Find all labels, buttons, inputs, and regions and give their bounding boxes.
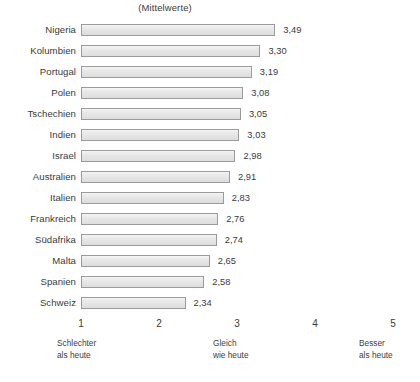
category-label: Italien: [0, 192, 76, 203]
chart-plot-area: Nigeria3,49Kolumbien3,30Portugal3,19Pole…: [0, 22, 420, 316]
bar: [81, 150, 235, 162]
bar-track: 3,19: [81, 66, 420, 79]
bar-value-label: 2,91: [238, 172, 256, 182]
bar-value-label: 3,03: [247, 130, 265, 140]
bar-track: 2,58: [81, 276, 420, 289]
chart-row: Spanien2,58: [0, 274, 420, 295]
category-label: Frankreich: [0, 213, 76, 224]
x-axis-tick-labels: 12345: [0, 318, 420, 332]
chart-title: (Mittelwerte): [0, 2, 330, 13]
bar: [81, 297, 186, 309]
x-axis-tick-2: 2: [139, 318, 179, 329]
bar-chart: (Mittelwerte) Nigeria3,49Kolumbien3,30Po…: [0, 0, 420, 382]
category-label: Spanien: [0, 276, 76, 287]
category-label: Kolumbien: [0, 45, 76, 56]
bar-track: 3,08: [81, 87, 420, 100]
axis-caption-line1: Schlechter: [57, 338, 96, 350]
bar-track: 2,74: [81, 234, 420, 247]
chart-row: Israel2,98: [0, 148, 420, 169]
bar-track: 3,30: [81, 45, 420, 58]
bar: [81, 234, 217, 246]
axis-caption-line1: Gleich: [213, 338, 249, 350]
bar-track: 2,98: [81, 150, 420, 163]
chart-row: Indien3,03: [0, 127, 420, 148]
bar: [81, 192, 224, 204]
bar-track: 2,65: [81, 255, 420, 268]
bar-value-label: 2,65: [218, 256, 236, 266]
bar-track: 3,05: [81, 108, 420, 121]
axis-caption-line1: Besser: [359, 338, 393, 350]
bar-value-label: 3,19: [260, 67, 278, 77]
chart-row: Australien2,91: [0, 169, 420, 190]
bar-value-label: 3,08: [251, 88, 269, 98]
bar: [81, 108, 241, 120]
chart-row: Nigeria3,49: [0, 22, 420, 43]
bar: [81, 87, 243, 99]
bar-value-label: 2,76: [226, 214, 244, 224]
x-axis-scale-captions: Schlechterals heuteGleichwie heuteBesser…: [0, 338, 420, 368]
bar: [81, 24, 275, 36]
bar: [81, 171, 230, 183]
x-axis-tick-5: 5: [373, 318, 413, 329]
bar-value-label: 2,74: [225, 235, 243, 245]
bar-track: 3,03: [81, 129, 420, 142]
bar-value-label: 2,83: [232, 193, 250, 203]
axis-caption-5: Besserals heute: [359, 338, 393, 361]
chart-row: Polen3,08: [0, 85, 420, 106]
category-label: Nigeria: [0, 24, 76, 35]
chart-row: Italien2,83: [0, 190, 420, 211]
chart-row: Malta2,65: [0, 253, 420, 274]
axis-caption-3: Gleichwie heute: [213, 338, 249, 361]
chart-row: Südafrika2,74: [0, 232, 420, 253]
category-label: Polen: [0, 87, 76, 98]
bar-value-label: 3,05: [249, 109, 267, 119]
category-label: Schweiz: [0, 297, 76, 308]
bar: [81, 213, 218, 225]
bar-track: 2,34: [81, 297, 420, 310]
chart-row: Tschechien3,05: [0, 106, 420, 127]
category-label: Tschechien: [0, 108, 76, 119]
bar-track: 2,91: [81, 171, 420, 184]
bar: [81, 255, 210, 267]
category-label: Südafrika: [0, 234, 76, 245]
category-label: Australien: [0, 171, 76, 182]
bar-track: 2,83: [81, 192, 420, 205]
bar-value-label: 2,98: [243, 151, 261, 161]
bar: [81, 129, 239, 141]
bar: [81, 45, 260, 57]
bar: [81, 276, 204, 288]
bar-value-label: 2,34: [194, 298, 212, 308]
chart-row: Portugal3,19: [0, 64, 420, 85]
bar-value-label: 3,49: [283, 25, 301, 35]
bar: [81, 66, 252, 78]
axis-caption-line2: wie heute: [213, 350, 249, 362]
category-label: Israel: [0, 150, 76, 161]
axis-caption-line2: als heute: [57, 350, 96, 362]
x-axis-tick-1: 1: [61, 318, 101, 329]
axis-caption-1: Schlechterals heute: [57, 338, 96, 361]
category-label: Portugal: [0, 66, 76, 77]
bar-value-label: 3,30: [268, 46, 286, 56]
bar-value-label: 2,58: [212, 277, 230, 287]
bar-track: 3,49: [81, 24, 420, 37]
axis-caption-line2: als heute: [359, 350, 393, 362]
chart-row: Schweiz2,34: [0, 295, 420, 316]
category-label: Indien: [0, 129, 76, 140]
chart-row: Kolumbien3,30: [0, 43, 420, 64]
bar-track: 2,76: [81, 213, 420, 226]
x-axis-tick-4: 4: [295, 318, 335, 329]
x-axis-tick-3: 3: [217, 318, 257, 329]
chart-row: Frankreich2,76: [0, 211, 420, 232]
category-label: Malta: [0, 255, 76, 266]
